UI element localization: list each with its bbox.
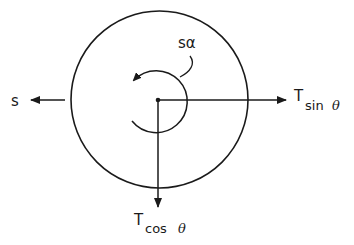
label-s: s (11, 92, 19, 110)
label-t-cos-theta: T cos θ (133, 211, 186, 236)
label-t-sin-theta-symbol: θ (332, 98, 340, 113)
label-moment: sα (178, 34, 196, 52)
label-t-main: T (293, 87, 304, 105)
label-t-sin-sub: sin (305, 98, 324, 113)
label-t-sin-theta: T sin θ (293, 87, 340, 113)
label-t-cos-theta-symbol: θ (178, 221, 186, 236)
moment-leader-line (180, 56, 192, 77)
free-body-diagram: s sα T sin θ T cos θ (0, 0, 354, 245)
label-t-cos-sub: cos (145, 221, 167, 236)
label-t-main: T (133, 211, 144, 229)
